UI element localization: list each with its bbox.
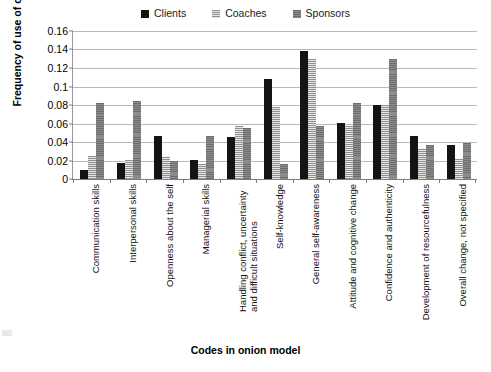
bar-sponsors[interactable] xyxy=(170,161,178,179)
plot-area-wrapper: 0.160.140.120.10.080.060.040.020 xyxy=(72,31,476,179)
legend-item-sponsors[interactable]: Sponsors xyxy=(293,8,350,19)
bar-coaches[interactable] xyxy=(235,126,243,179)
x-axis-tick-mark xyxy=(183,179,184,183)
x-axis-tick-mark xyxy=(110,179,111,183)
bar-coaches[interactable] xyxy=(418,149,426,179)
x-axis-category-label: Self-knowledge xyxy=(275,184,286,249)
y-axis-tick-label: 0.1 xyxy=(53,82,68,93)
scan-artifact xyxy=(2,330,12,336)
bar-group xyxy=(330,31,367,179)
bar-sponsors[interactable] xyxy=(133,101,141,179)
bar-clients[interactable] xyxy=(154,136,162,179)
bar-clients[interactable] xyxy=(300,51,308,179)
x-axis-label-slot: Handling conflict, uncertainty and diffi… xyxy=(220,184,257,324)
bars-layer xyxy=(74,31,477,179)
x-axis-label-slot: Development of resourcefulness xyxy=(403,184,440,324)
bar-group xyxy=(147,31,184,179)
y-axis-tick-label: 0.14 xyxy=(48,44,68,55)
legend-item-coaches[interactable]: Coaches xyxy=(212,8,266,19)
bar-clients[interactable] xyxy=(227,137,235,179)
x-axis-tick-mark xyxy=(256,179,257,183)
x-axis-tick-mark xyxy=(220,179,221,183)
bar-coaches[interactable] xyxy=(125,160,133,179)
bar-clients[interactable] xyxy=(80,170,88,179)
y-axis-tick-mark xyxy=(69,105,73,106)
x-axis-category-label: Attitude and cognitive change xyxy=(348,184,359,309)
x-axis-label-slot: Interpersonal skills xyxy=(110,184,147,324)
legend-swatch-clients-icon xyxy=(141,10,149,18)
x-axis-tick-mark xyxy=(439,179,440,183)
x-axis-category-labels: Communication skillsInterpersonal skills… xyxy=(73,184,476,324)
y-axis-tick-label: 0.02 xyxy=(48,156,68,167)
x-axis-category-label: Interpersonal skills xyxy=(128,184,139,263)
y-axis-tick-mark xyxy=(69,124,73,125)
bar-clients[interactable] xyxy=(373,105,381,179)
x-axis-tick-mark xyxy=(403,179,404,183)
x-axis-label-slot: General self-awareness xyxy=(293,184,330,324)
bar-coaches[interactable] xyxy=(455,159,463,179)
bar-coaches[interactable] xyxy=(198,164,206,179)
legend-label-clients: Clients xyxy=(154,8,186,19)
legend-swatch-sponsors-icon xyxy=(293,10,301,18)
x-axis-category-label: Overall change, not specified xyxy=(458,184,469,307)
y-axis-tick-mark xyxy=(69,161,73,162)
bar-sponsors[interactable] xyxy=(96,103,104,179)
x-axis-title: Codes in onion model xyxy=(0,344,491,356)
bar-coaches[interactable] xyxy=(308,59,316,179)
y-axis-tick-mark xyxy=(69,87,73,88)
x-axis-label-slot: Openness about the self xyxy=(146,184,183,324)
x-axis-label-slot: Attitude and cognitive change xyxy=(329,184,366,324)
x-axis-category-label: Managerial skills xyxy=(201,184,212,254)
legend-item-clients[interactable]: Clients xyxy=(141,8,186,19)
bar-group xyxy=(111,31,148,179)
bar-sponsors[interactable] xyxy=(426,145,434,179)
bar-clients[interactable] xyxy=(117,163,125,179)
y-axis-tick-mark xyxy=(69,49,73,50)
bar-coaches[interactable] xyxy=(381,105,389,179)
x-axis-tick-mark xyxy=(293,179,294,183)
y-axis-tick-label: 0.06 xyxy=(48,119,68,130)
legend-label-coaches: Coaches xyxy=(225,8,266,19)
bar-sponsors[interactable] xyxy=(206,136,214,179)
bar-sponsors[interactable] xyxy=(463,143,471,179)
bar-clients[interactable] xyxy=(264,79,272,179)
y-axis-tick-label: 0.04 xyxy=(48,137,68,148)
plot-area: 0.160.140.120.10.080.060.040.020 xyxy=(72,31,476,179)
bar-sponsors[interactable] xyxy=(389,59,397,179)
bar-clients[interactable] xyxy=(447,145,455,179)
bar-coaches[interactable] xyxy=(162,157,170,179)
y-axis-tick-mark xyxy=(69,142,73,143)
bar-group xyxy=(74,31,111,179)
x-axis-label-slot: Managerial skills xyxy=(183,184,220,324)
bar-sponsors[interactable] xyxy=(316,126,324,179)
x-axis-tick-mark xyxy=(475,179,476,183)
chart-legend: Clients Coaches Sponsors xyxy=(0,8,491,19)
bar-coaches[interactable] xyxy=(272,107,280,179)
bar-sponsors[interactable] xyxy=(353,103,361,179)
x-axis-category-label: General self-awareness xyxy=(311,184,322,284)
y-axis-tick-label: 0.08 xyxy=(48,100,68,111)
bar-group xyxy=(367,31,404,179)
x-axis-category-label: Openness about the self xyxy=(165,184,176,287)
bar-clients[interactable] xyxy=(337,123,345,179)
x-axis-tick-mark xyxy=(366,179,367,183)
bar-group xyxy=(440,31,477,179)
x-axis-category-label: Communication skills xyxy=(91,184,102,273)
bar-clients[interactable] xyxy=(190,160,198,179)
bar-clients[interactable] xyxy=(410,136,418,179)
bar-coaches[interactable] xyxy=(88,156,96,179)
x-axis-label-slot: Self-knowledge xyxy=(256,184,293,324)
y-axis-tick-label: 0 xyxy=(62,174,68,185)
x-axis-category-label: Confidence and authenticity xyxy=(384,184,395,301)
bar-sponsors[interactable] xyxy=(280,164,288,179)
chart-figure: Clients Coaches Sponsors Frequency of us… xyxy=(0,0,491,372)
bar-group xyxy=(221,31,258,179)
bar-coaches[interactable] xyxy=(345,126,353,179)
y-axis-tick-label: 0.16 xyxy=(48,26,68,37)
bar-sponsors[interactable] xyxy=(243,128,251,179)
x-axis-tick-mark xyxy=(146,179,147,183)
x-axis-label-slot: Confidence and authenticity xyxy=(366,184,403,324)
x-axis-label-slot: Overall change, not specified xyxy=(439,184,476,324)
y-axis-tick-mark xyxy=(69,31,73,32)
x-axis-category-label: Development of resourcefulness xyxy=(421,184,432,320)
